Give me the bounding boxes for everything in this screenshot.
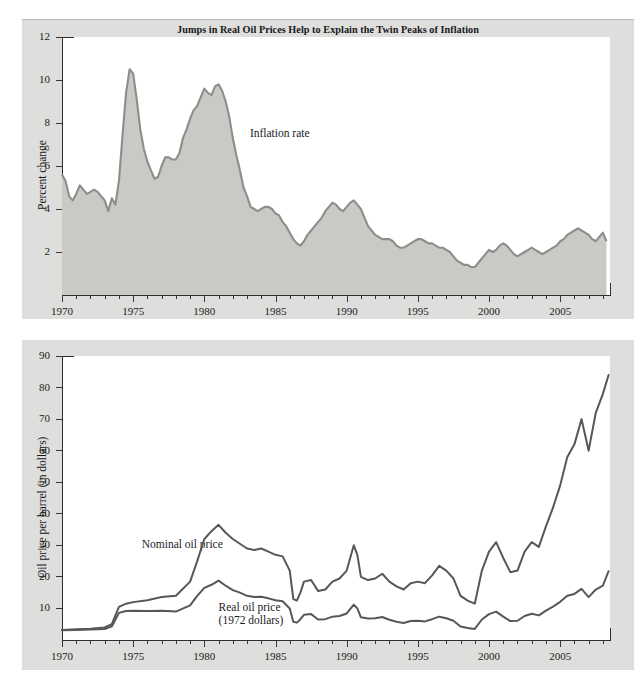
chart-curves bbox=[0, 0, 634, 687]
nominal-oil-price-line bbox=[62, 375, 609, 630]
figure-page: Jumps in Real Oil Prices Help to Explain… bbox=[0, 0, 634, 687]
inflation-rate-area bbox=[62, 69, 606, 295]
